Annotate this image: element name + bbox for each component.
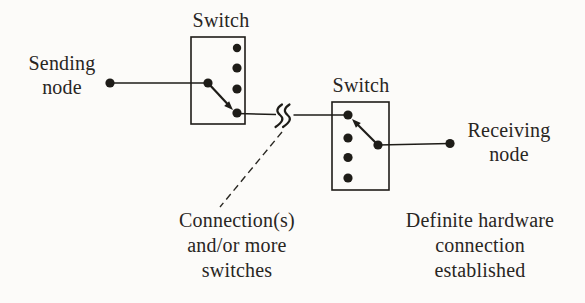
receiving-node-dot [445, 139, 454, 148]
switch1-selector-arm [208, 83, 228, 105]
line-break-squiggle-icon [283, 105, 290, 128]
sending-node-label: Sending node [12, 51, 112, 99]
receiving-node-label: Receiving node [456, 118, 562, 166]
switch2-port-dot [343, 133, 352, 142]
switch2-port-dot [343, 173, 352, 182]
caption-definite-hardware-connection: Definite hardware connection established [390, 208, 570, 283]
switch2-selector-arm [358, 125, 379, 146]
switch2-port-dot [343, 153, 352, 162]
annotation-pointer-dashed-line [220, 132, 282, 207]
switch2-label: Switch [325, 73, 397, 97]
circuit-switching-diagram: Switch Switch Sending node Receiving nod… [0, 0, 585, 303]
caption-connections-or-more-switches: Connection(s) and/or more switches [158, 208, 316, 283]
switch1-label: Switch [186, 8, 256, 32]
line-break-squiggle-icon [276, 105, 283, 128]
switch1-port-dot [233, 44, 241, 52]
switch1-port-dot [232, 84, 241, 93]
link-switch1-to-break [237, 114, 276, 115]
switch2-input-dot [343, 110, 352, 119]
switch1-port-dot [232, 63, 241, 72]
